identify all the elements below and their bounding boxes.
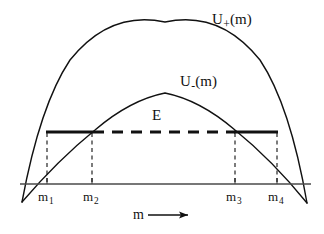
tick-label-m3-subscript: 3 [236, 196, 241, 206]
tick-label-m1: m1 [38, 190, 54, 206]
potential-energy-figure: U+(m) U-(m) E m1 m2 m3 m4 m [0, 0, 324, 234]
curve-label-u-plus: U+(m) [212, 12, 252, 30]
tick-label-m4: m4 [268, 190, 284, 206]
curve-u-minus [22, 93, 307, 203]
m-axis-label: m [133, 208, 144, 222]
tick-label-m3-base: m [226, 189, 236, 204]
tick-label-m4-base: m [268, 189, 278, 204]
curve-label-u-minus: U-(m) [180, 74, 217, 92]
tick-label-m1-subscript: 1 [48, 196, 53, 206]
curve-label-u-plus-subscript: + [223, 18, 230, 31]
tick-label-m2-base: m [83, 189, 93, 204]
tick-label-m3: m3 [226, 190, 242, 206]
curve-label-u-minus-argument: (m) [195, 73, 217, 89]
curve-label-u-plus-base: U [212, 11, 223, 27]
tick-label-m4-subscript: 4 [278, 196, 283, 206]
curve-label-u-plus-argument: (m) [230, 11, 252, 27]
tick-label-m2-subscript: 2 [93, 196, 98, 206]
tick-label-m1-base: m [38, 189, 48, 204]
curve-u-plus [22, 20, 307, 203]
tick-label-m2: m2 [83, 190, 99, 206]
curve-label-u-minus-base: U [180, 73, 191, 89]
energy-level-label: E [152, 108, 161, 123]
